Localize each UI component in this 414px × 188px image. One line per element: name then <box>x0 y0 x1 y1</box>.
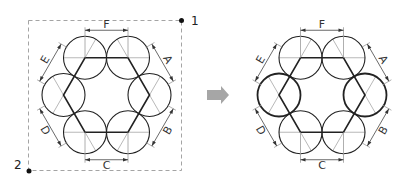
left-arrowhead <box>123 158 128 162</box>
corner-label-2: 2 <box>14 158 22 172</box>
right-radial-line <box>333 132 344 151</box>
right-arrowhead <box>367 44 371 49</box>
left-arrowhead <box>85 28 90 32</box>
right-arrowhead <box>273 44 277 49</box>
left-radial-line <box>53 95 64 114</box>
left-arrowhead <box>169 76 173 81</box>
left-radial-line <box>53 76 64 95</box>
left-arrowhead <box>57 44 61 49</box>
left-dim-label-f: F <box>103 18 109 31</box>
left-arrowhead <box>85 158 90 162</box>
right-dim-label-b: B <box>376 124 391 137</box>
left-dim-label-d: D <box>37 123 53 137</box>
left-arrowhead <box>169 109 173 114</box>
right-radial-line <box>301 132 312 151</box>
right-radial-line <box>268 95 279 114</box>
right-radial-line <box>365 76 376 95</box>
hexagon-circles-diagram: BCDEFA12BCDEFA <box>0 0 414 188</box>
right-radial-line <box>365 95 376 114</box>
right-arrow-icon <box>207 86 229 104</box>
right-dim-label-e: E <box>253 53 268 66</box>
left-extension-line <box>37 105 46 110</box>
right-extension-line <box>253 80 262 85</box>
right-arrowhead <box>301 28 306 32</box>
left-dim-label-a: A <box>160 53 175 66</box>
left-radial-line <box>85 132 96 151</box>
right-radial-line <box>301 39 312 58</box>
left-dim-label-e: E <box>38 53 53 66</box>
corner-point-2 <box>27 169 32 174</box>
left-hexagon <box>64 58 150 132</box>
bounding-box-dashed <box>29 21 182 171</box>
right-arrowhead <box>301 158 306 162</box>
right-arrowhead <box>339 158 344 162</box>
right-arrowhead <box>339 28 344 32</box>
right-extension-line <box>253 105 262 110</box>
left-radial-line <box>117 132 128 151</box>
right-arrowhead <box>273 141 277 146</box>
left-arrowhead <box>123 28 128 32</box>
left-arrowhead <box>152 44 156 49</box>
left-radial-line <box>85 39 96 58</box>
right-arrowhead <box>255 109 259 114</box>
left-extension-line <box>167 80 176 85</box>
corner-point-1 <box>179 18 184 23</box>
left-radial-line <box>117 39 128 58</box>
left-arrowhead <box>40 76 44 81</box>
corner-label-1: 1 <box>191 14 199 28</box>
left-arrowhead <box>152 141 156 146</box>
left-arrowhead <box>57 141 61 146</box>
right-arrowhead <box>385 109 389 114</box>
left-arrowhead <box>40 109 44 114</box>
right-arrowhead <box>367 141 371 146</box>
right-radial-line <box>333 39 344 58</box>
right-dim-label-d: D <box>253 123 269 137</box>
left-radial-line <box>150 95 161 114</box>
right-arrowhead <box>385 76 389 81</box>
left-extension-line <box>167 105 176 110</box>
left-radial-line <box>150 76 161 95</box>
left-extension-line <box>37 80 46 85</box>
right-extension-line <box>383 80 392 85</box>
right-arrowhead <box>255 76 259 81</box>
right-dim-label-a: A <box>376 53 391 66</box>
left-dim-label-b: B <box>160 124 175 137</box>
right-extension-line <box>383 105 392 110</box>
right-dim-label-f: F <box>319 18 325 31</box>
right-dim-label-c: C <box>318 159 326 172</box>
right-hexagon <box>279 58 365 132</box>
right-radial-line <box>268 76 279 95</box>
left-dim-label-c: C <box>103 159 111 172</box>
